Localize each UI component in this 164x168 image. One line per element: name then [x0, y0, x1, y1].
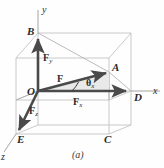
diagram-canvas: [0, 0, 164, 168]
vertex-label-b: B: [27, 26, 34, 37]
vertex-label-o: O: [27, 86, 35, 97]
axis-label-z: z: [1, 152, 5, 162]
vertex-label-e: E: [17, 134, 24, 145]
vector-diagram-figure: y x z O A B C D E F Fx Fy Fz θx (a): [0, 0, 164, 168]
vector-label-fx-subscript: x: [79, 101, 82, 109]
angle-label-theta-x: θx: [86, 78, 94, 90]
vertex-label-c: C: [104, 134, 111, 145]
vector-label-fz-subscript: z: [35, 110, 38, 118]
axis-label-x: x: [153, 86, 157, 96]
vertex-label-a: A: [112, 62, 119, 73]
vector-label-f: F: [57, 74, 63, 86]
vector-label-fy-subscript: y: [49, 57, 52, 65]
box-edge-top-right-diag: [109, 33, 131, 58]
vector-label-fy: Fy: [43, 53, 52, 65]
vector-label-f-symbol: F: [57, 73, 63, 84]
vector-label-fx: Fx: [73, 97, 82, 109]
axis-z-line: [4, 134, 16, 152]
line-a-to-d: [109, 72, 131, 91]
axis-label-y: y: [42, 5, 46, 15]
box-edge-bottom-front-right-diag: [109, 125, 131, 134]
vertex-label-d: D: [134, 92, 142, 103]
angle-subscript: x: [91, 82, 94, 90]
box-edge-bottom-right-diag: [109, 91, 131, 100]
vector-label-fz: Fz: [29, 106, 38, 118]
figure-caption: (a): [72, 150, 84, 160]
